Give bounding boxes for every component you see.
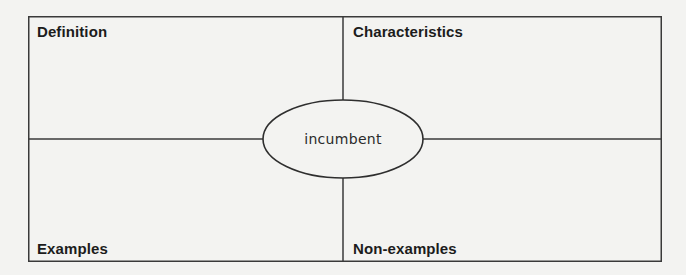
quadrant-label-definition: Definition — [37, 23, 107, 40]
quadrant-label-characteristics: Characteristics — [353, 23, 463, 40]
frayer-model: Definition Characteristics Examples Non-… — [28, 16, 662, 262]
center-term-container: incumbent — [263, 100, 423, 178]
quadrant-label-examples: Examples — [37, 240, 108, 257]
center-term: incumbent — [304, 131, 382, 147]
quadrant-label-non-examples: Non-examples — [353, 240, 457, 257]
